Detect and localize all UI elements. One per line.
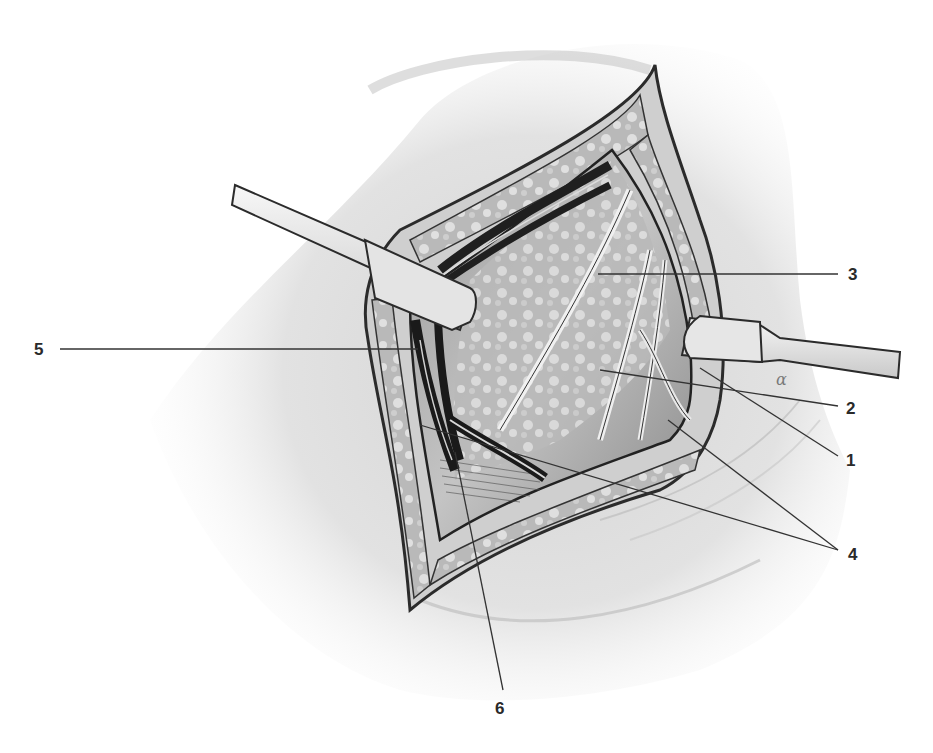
artist-signature: α [776, 370, 787, 389]
callout-label-1: 1 [846, 452, 855, 469]
callout-label-5: 5 [34, 341, 43, 358]
callout-label-6: 6 [495, 700, 504, 717]
callout-label-4: 4 [848, 546, 857, 563]
surgical-illustration: α [0, 0, 933, 753]
callout-label-2: 2 [846, 400, 855, 417]
callout-label-3: 3 [848, 266, 857, 283]
